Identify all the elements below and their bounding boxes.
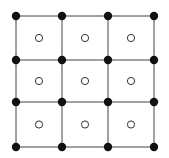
filled-vertex-dot: [104, 143, 112, 151]
filled-vertex-dot: [58, 12, 66, 20]
filled-vertex-dot: [12, 56, 20, 64]
filled-vertex-dot: [12, 12, 20, 20]
hollow-center-circle: [35, 34, 42, 41]
filled-vertex-dot: [58, 143, 66, 151]
filled-vertex-dot: [12, 98, 20, 106]
hollow-center-circle: [127, 34, 134, 41]
lattice-diagram: [0, 0, 169, 158]
filled-vertex-dot: [104, 98, 112, 106]
hollow-center-circle: [127, 77, 134, 84]
filled-vertex-dot: [150, 98, 158, 106]
hollow-center-circle: [81, 34, 88, 41]
hollow-center-circle: [81, 121, 88, 128]
filled-vertex-dot: [12, 143, 20, 151]
filled-vertex-dot: [104, 56, 112, 64]
filled-vertex-dot: [104, 12, 112, 20]
cell-center-circles: [35, 34, 134, 128]
filled-vertex-dot: [58, 56, 66, 64]
hollow-center-circle: [127, 121, 134, 128]
hollow-center-circle: [81, 77, 88, 84]
hollow-center-circle: [35, 77, 42, 84]
filled-vertex-dot: [150, 143, 158, 151]
filled-vertex-dot: [150, 56, 158, 64]
hollow-center-circle: [35, 121, 42, 128]
filled-vertex-dot: [150, 12, 158, 20]
filled-vertex-dot: [58, 98, 66, 106]
